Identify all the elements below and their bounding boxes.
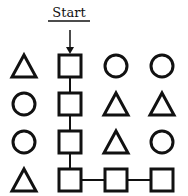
triangle-icon — [104, 131, 128, 153]
circle-icon — [13, 93, 35, 115]
triangle-icon — [104, 93, 128, 115]
triangle-icon — [12, 55, 36, 77]
square-icon — [105, 169, 127, 191]
square-icon — [59, 169, 81, 191]
arrow-head-icon — [66, 47, 74, 54]
circle-icon — [13, 131, 35, 153]
circle-icon — [151, 55, 173, 77]
square-icon — [59, 131, 81, 153]
triangle-icon — [12, 169, 36, 191]
square-icon — [151, 169, 173, 191]
circle-icon — [105, 55, 127, 77]
shape-path-diagram — [0, 0, 188, 196]
circle-icon — [151, 131, 173, 153]
triangle-icon — [150, 93, 174, 115]
square-icon — [59, 93, 81, 115]
square-icon — [59, 55, 81, 77]
